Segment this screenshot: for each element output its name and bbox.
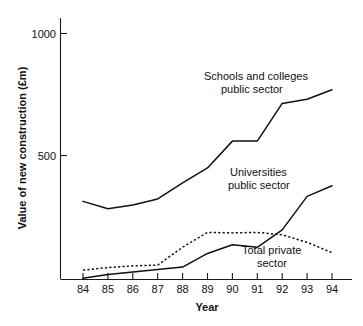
annotation-universities: Universities public sector bbox=[228, 166, 290, 191]
x-tick-label-91: 91 bbox=[251, 283, 263, 295]
private-label-line2: sector bbox=[257, 257, 287, 269]
universities-label-line1: Universities bbox=[230, 166, 287, 178]
y-axis-title: Value of new construction (£m) bbox=[16, 66, 28, 229]
x-tick-label-84: 84 bbox=[77, 283, 89, 295]
line-chart: 1000 500 84 85 86 87 88 89 90 91 92 9 bbox=[0, 0, 363, 326]
x-tick-label-93: 93 bbox=[301, 283, 313, 295]
private-label-line1: Total private bbox=[242, 244, 301, 256]
chart-background bbox=[0, 0, 363, 326]
y-tick-label-1000: 1000 bbox=[32, 28, 56, 40]
schools-label-line1: Schools and colleges bbox=[204, 70, 308, 82]
universities-label-line2: public sector bbox=[228, 179, 290, 191]
y-tick-label-500: 500 bbox=[38, 150, 56, 162]
x-tick-label-86: 86 bbox=[127, 283, 139, 295]
chart-container: 1000 500 84 85 86 87 88 89 90 91 92 9 bbox=[0, 0, 363, 326]
x-axis-title: Year bbox=[195, 301, 219, 313]
x-tick-label-89: 89 bbox=[201, 283, 213, 295]
x-tick-label-88: 88 bbox=[176, 283, 188, 295]
x-tick-label-92: 92 bbox=[276, 283, 288, 295]
schools-label-line2: public sector bbox=[221, 83, 283, 95]
x-tick-label-85: 85 bbox=[102, 283, 114, 295]
x-tick-label-87: 87 bbox=[152, 283, 164, 295]
x-tick-label-94: 94 bbox=[326, 283, 338, 295]
x-tick-label-90: 90 bbox=[226, 283, 238, 295]
